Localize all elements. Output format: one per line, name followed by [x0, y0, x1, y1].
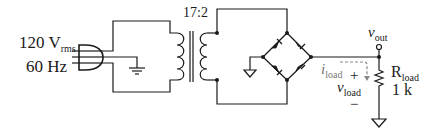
- load-ground-icon: [372, 119, 386, 127]
- vout-label: vout: [368, 25, 387, 43]
- bridge-ground: [244, 57, 263, 77]
- transformer-icon: [177, 31, 217, 82]
- load-current-label: iload: [321, 62, 342, 80]
- resistor-icon: [375, 68, 383, 119]
- source-voltage-label: 120 Vrms: [19, 34, 76, 54]
- load-voltage-minus: −: [350, 97, 358, 112]
- source-frequency-label: 60 Hz: [26, 58, 67, 75]
- ground-icon: [129, 68, 145, 74]
- transformer-ratio-label: 17:2: [183, 6, 208, 20]
- vout-terminal: [377, 45, 382, 50]
- plug-icon: [72, 45, 103, 70]
- diode-bridge-icon: [263, 33, 311, 80]
- primary-wiring: [103, 21, 177, 92]
- current-arrowhead-icon: [364, 76, 370, 81]
- resistor-value-label: 1 k: [392, 82, 412, 98]
